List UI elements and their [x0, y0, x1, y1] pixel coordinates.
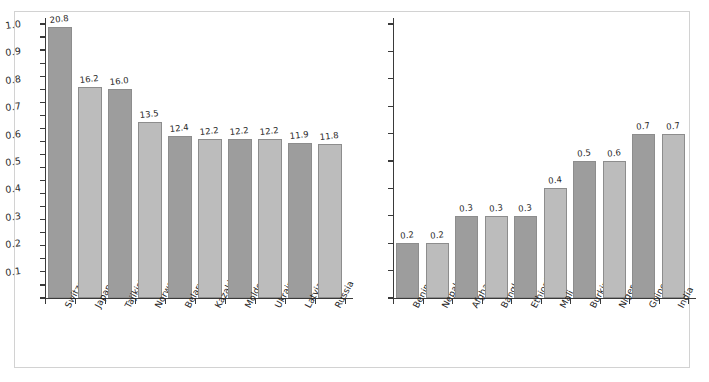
bar-0-9[interactable] [318, 144, 341, 298]
y-tick-1-6 [388, 133, 393, 134]
bar-value-label-1-9: 0.7 [655, 119, 691, 133]
x-tick-1-8 [629, 299, 630, 304]
y-tick-0-13 [40, 128, 45, 129]
bar-1-6[interactable] [573, 161, 596, 298]
x-tick-1-7 [600, 299, 601, 304]
bar-0-2[interactable] [108, 89, 131, 298]
y-tick-0-11 [40, 154, 45, 155]
bar-1-9[interactable] [662, 134, 685, 298]
bar-1-8[interactable] [632, 134, 655, 298]
y-tick-0-5 [40, 232, 45, 233]
x-tick-0-0 [45, 299, 46, 304]
x-tick-0-3 [135, 299, 136, 304]
x-tick-0-8 [285, 299, 286, 304]
bar-1-3[interactable] [485, 216, 508, 298]
y-tick-1-9 [388, 51, 393, 52]
y-tick-1-4 [388, 188, 393, 189]
bar-value-label-1-1: 0.2 [419, 228, 455, 242]
y-tick-1-10 [388, 23, 393, 24]
x-tick-1-4 [511, 299, 512, 304]
x-tick-0-4 [165, 299, 166, 304]
x-tick-1-2 [452, 299, 453, 304]
bar-value-label-0-2: 16.0 [101, 74, 137, 88]
y-tick-0-3 [40, 258, 45, 259]
x-tick-1-6 [570, 299, 571, 304]
chart-panel-left: 012345678910111213141516171819202120.8Sw… [0, 0, 365, 382]
bar-0-1[interactable] [78, 87, 101, 298]
x-tick-1-5 [541, 299, 542, 304]
y-tick-1-8 [388, 78, 393, 79]
x-tick-0-9 [315, 299, 316, 304]
x-tick-0-1 [75, 299, 76, 304]
y-axis-line-1 [393, 18, 394, 298]
bar-1-1[interactable] [426, 243, 449, 298]
bar-0-0[interactable] [48, 27, 71, 298]
bar-0-5[interactable] [198, 139, 221, 298]
y-tick-0-17 [40, 76, 45, 77]
x-tick-1-3 [482, 299, 483, 304]
bar-value-label-1-7: 0.6 [596, 146, 632, 160]
bar-value-label-1-5: 0.4 [537, 174, 573, 188]
x-tick-1-9 [659, 299, 660, 304]
bar-0-6[interactable] [228, 139, 251, 298]
y-tick-0-15 [40, 102, 45, 103]
x-tick-0-2 [105, 299, 106, 304]
bar-0-8[interactable] [288, 143, 311, 298]
y-tick-0-4 [40, 245, 45, 246]
x-tick-1-0 [393, 299, 394, 304]
y-tick-1-7 [388, 106, 393, 107]
y-tick-0-12 [40, 141, 45, 142]
y-tick-0-6 [40, 219, 45, 220]
y-tick-0-20 [40, 36, 45, 37]
y-tick-1-3 [388, 215, 393, 216]
y-tick-0-18 [40, 63, 45, 64]
bar-1-5[interactable] [544, 188, 567, 298]
y-tick-1-1 [388, 270, 393, 271]
bar-value-label-0-3: 13.5 [131, 107, 167, 121]
x-tick-1-end [688, 299, 689, 304]
y-axis-line-0 [45, 18, 46, 298]
y-tick-0-8 [40, 193, 45, 194]
chart-panel-right: 00.10.20.30.40.50.60.70.80.91.00.2Benin0… [345, 0, 709, 382]
y-tick-0-14 [40, 115, 45, 116]
y-tick-1-2 [388, 243, 393, 244]
x-tick-0-6 [225, 299, 226, 304]
bar-1-0[interactable] [396, 243, 419, 298]
y-tick-0-9 [40, 180, 45, 181]
bar-1-2[interactable] [455, 216, 478, 298]
bar-1-4[interactable] [514, 216, 537, 298]
bar-0-3[interactable] [138, 122, 161, 298]
bar-0-7[interactable] [258, 139, 281, 298]
y-tick-0-7 [40, 206, 45, 207]
y-tick-1-5 [388, 160, 393, 161]
x-tick-0-5 [195, 299, 196, 304]
y-tick-0-16 [40, 89, 45, 90]
x-tick-0-7 [255, 299, 256, 304]
y-tick-0-2 [40, 271, 45, 272]
x-tick-1-1 [423, 299, 424, 304]
bar-1-7[interactable] [603, 161, 626, 298]
bar-0-4[interactable] [168, 136, 191, 298]
figure: 012345678910111213141516171819202120.8Sw… [0, 0, 709, 382]
y-tick-0-19 [40, 49, 45, 50]
bar-value-label-0-0: 20.8 [41, 12, 77, 26]
y-tick-0-1 [40, 284, 45, 285]
y-tick-0-10 [40, 167, 45, 168]
bar-value-label-0-9: 11.8 [311, 129, 347, 143]
